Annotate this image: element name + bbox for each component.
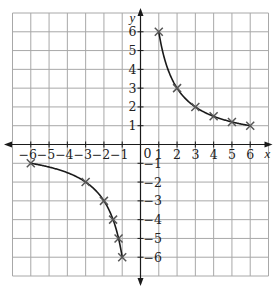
origin-label: 0: [144, 146, 152, 161]
x-tick-label: 6: [246, 147, 254, 162]
y-tick-label: 1: [129, 118, 137, 133]
y-tick-label: 2: [129, 99, 137, 114]
x-tick-label: 4: [210, 147, 218, 162]
y-axis-arrow-down-icon: [138, 278, 144, 286]
y-tick-label: 6: [129, 24, 137, 39]
x-tick-label: −2: [92, 147, 110, 162]
y-tick-label: 3: [129, 81, 137, 96]
x-tick-label: −5: [37, 147, 55, 162]
x-axis-label: x: [264, 146, 271, 161]
x-tick-label: 5: [228, 147, 236, 162]
y-tick-label: −5: [144, 231, 162, 246]
y-tick-label: −6: [144, 250, 162, 265]
x-tick-label: −1: [110, 147, 128, 162]
x-tick-label: −3: [73, 147, 91, 162]
x-tick-label: 3: [191, 147, 199, 162]
y-tick-label: 4: [129, 62, 137, 77]
x-axis-arrow-left-icon: [4, 142, 12, 148]
y-tick-label: −3: [144, 193, 162, 208]
y-tick-label: −2: [144, 175, 162, 190]
y-tick-label: −4: [144, 212, 162, 227]
x-tick-label: −4: [55, 147, 73, 162]
curve-branch: [159, 32, 250, 126]
y-tick-label: 5: [129, 43, 137, 58]
chart: −6−5−4−3−2−1123456−6−5−4−3−2−1123456 x y…: [0, 0, 274, 290]
y-axis-arrow-up-icon: [138, 8, 144, 16]
curve-branch: [31, 163, 122, 257]
y-axis-label: y: [128, 10, 136, 25]
x-tick-label: 2: [173, 147, 181, 162]
